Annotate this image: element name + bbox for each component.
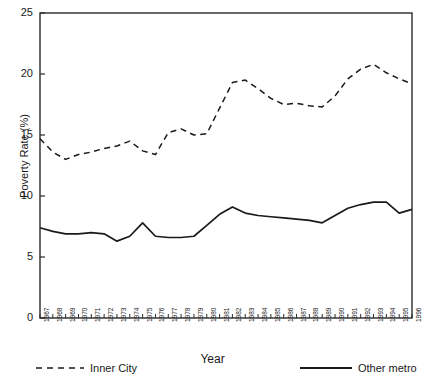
legend-label-inner-city: Inner City <box>90 362 137 374</box>
x-tick-label-1989: 1989 <box>325 308 332 322</box>
x-tick-label-1969: 1969 <box>69 308 76 322</box>
series-group <box>40 64 412 241</box>
y-tick-label-10: 10 <box>3 190 33 201</box>
x-tick-label-1971: 1971 <box>94 308 101 322</box>
plot-frame <box>40 13 412 318</box>
x-tick-label-1977: 1977 <box>171 308 178 322</box>
x-tick-label-1980: 1980 <box>210 308 217 322</box>
x-tick-label-1994: 1994 <box>389 308 396 322</box>
poverty-rate-line-chart: Poverty Rate (%) 0510152025 196719681969… <box>0 0 425 380</box>
x-tick-label-1967: 1967 <box>43 308 50 322</box>
x-tick-label-1990: 1990 <box>338 308 345 322</box>
y-tick-label-5: 5 <box>3 251 33 262</box>
x-tick-label-1983: 1983 <box>248 308 255 322</box>
plot-area <box>0 0 425 380</box>
x-tick-label-1995: 1995 <box>402 308 409 322</box>
x-tick-label-1970: 1970 <box>81 308 88 322</box>
y-tick-label-25: 25 <box>3 7 33 18</box>
x-tick-label-1988: 1988 <box>312 308 319 322</box>
x-tick-label-1975: 1975 <box>146 308 153 322</box>
x-tick-label-1982: 1982 <box>235 308 242 322</box>
x-tick-label-1987: 1987 <box>300 308 307 322</box>
x-tick-label-1974: 1974 <box>133 308 140 322</box>
x-tick-label-1991: 1991 <box>351 308 358 322</box>
x-tick-label-1973: 1973 <box>120 308 127 322</box>
legend-label-other-metro: Other metro <box>358 362 417 374</box>
x-tick-label-1978: 1978 <box>184 308 191 322</box>
x-tick-label-1985: 1985 <box>274 308 281 322</box>
x-tick-label-1984: 1984 <box>261 308 268 322</box>
x-tick-label-1993: 1993 <box>377 308 384 322</box>
x-tick-label-1992: 1992 <box>364 308 371 322</box>
y-tick-label-0: 0 <box>3 312 33 323</box>
series-line-other-metro <box>40 202 412 241</box>
y-tick-label-15: 15 <box>3 129 33 140</box>
x-tick-label-1972: 1972 <box>107 308 114 322</box>
x-tick-label-1996: 1996 <box>415 308 422 322</box>
x-tick-label-1981: 1981 <box>223 308 230 322</box>
x-tick-label-1968: 1968 <box>56 308 63 322</box>
series-line-inner-city <box>40 64 412 159</box>
x-tick-label-1986: 1986 <box>287 308 294 322</box>
x-tick-label-1976: 1976 <box>158 308 165 322</box>
y-axis-title: Poverty Rate (%) <box>18 76 30 236</box>
y-tick-label-20: 20 <box>3 68 33 79</box>
x-tick-label-1979: 1979 <box>197 308 204 322</box>
